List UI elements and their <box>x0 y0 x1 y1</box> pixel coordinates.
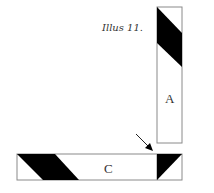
strip-a: A <box>157 7 182 143</box>
quilt-diagram: Illus 11. A C <box>0 0 214 193</box>
strip-a-label: A <box>165 91 175 106</box>
strip-c-label: C <box>104 161 113 176</box>
strip-c: C <box>17 154 182 180</box>
illustration-caption: Illus 11. <box>101 22 143 33</box>
arrow-icon <box>136 134 153 151</box>
